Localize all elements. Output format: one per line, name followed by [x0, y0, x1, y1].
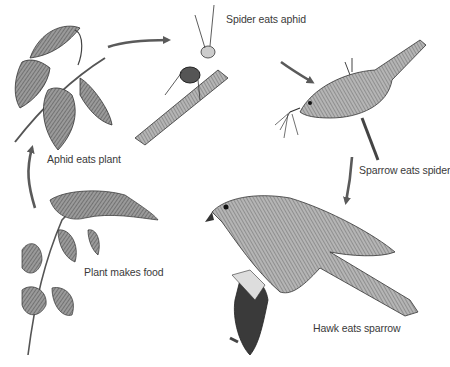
arrow-aphid-to-spider	[108, 40, 168, 47]
label-aphid-eats-plant: Aphid eats plant	[47, 153, 121, 165]
arrow-plant-to-aphid	[28, 148, 35, 208]
label-spider-eats-aphid: Spider eats aphid	[226, 13, 306, 25]
sparrow-illustration	[275, 40, 426, 160]
arrow-sparrow-to-hawk	[346, 157, 352, 202]
arrow-spider-to-sparrow	[281, 62, 312, 82]
spider-illustration	[135, 5, 228, 145]
label-sparrow-eats-spider: Sparrow eats spider	[359, 164, 450, 176]
label-plant-makes-food: Plant makes food	[84, 266, 164, 278]
aphid-plant-illustration	[15, 26, 112, 150]
label-hawk-eats-sparrow: Hawk eats sparrow	[313, 322, 401, 334]
